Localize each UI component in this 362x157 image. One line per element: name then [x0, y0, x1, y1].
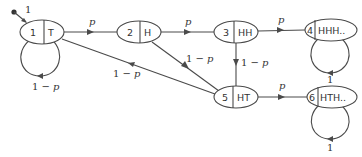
node-1: 1 T	[20, 20, 64, 44]
variable-p: p	[262, 57, 269, 68]
node-6: 6 HTH..	[307, 86, 357, 108]
node-state: HHH..	[318, 25, 345, 36]
node-id: 3	[223, 27, 229, 38]
edge-label-1-2: p	[89, 16, 96, 27]
node-state: H	[144, 27, 151, 38]
edge-label-3-4: p	[278, 14, 285, 25]
node-state: HH	[238, 27, 252, 38]
node-5: 5 HT	[214, 86, 258, 108]
edge-1-2: p	[64, 16, 117, 35]
node-id: 4	[307, 25, 313, 36]
variable-p: p	[207, 53, 214, 64]
variable-p: p	[134, 68, 141, 79]
arrow-icon	[37, 73, 43, 79]
edge-4-4: 1	[311, 39, 349, 85]
edge-label-1-1: 1 − p	[32, 81, 60, 92]
edge-label-6-6: 1	[327, 142, 333, 153]
node-state: HT	[237, 92, 250, 103]
edge-label-5-6: p	[279, 80, 286, 91]
edge-1-1: 1 − p	[21, 40, 60, 92]
edge-label-4-4: 1	[327, 74, 333, 85]
edge-5-1: 1 − p	[62, 39, 215, 94]
edge-label-3-5: 1 − p	[241, 57, 269, 68]
edge-label-2-3: p	[185, 16, 192, 27]
edge-label-2-5: 1 − p	[186, 53, 214, 64]
self-loop-1	[21, 40, 60, 76]
edge-label-5-1: 1 − p	[113, 68, 141, 79]
edge-label-start-1: 1	[25, 4, 31, 15]
node-id: 5	[222, 92, 228, 103]
arrow-icon	[278, 94, 285, 100]
node-id: 6	[309, 92, 315, 103]
variable-p: p	[53, 81, 60, 92]
arrow-icon	[184, 29, 191, 35]
node-id: 1	[30, 27, 36, 38]
node-4: 4 HHH..	[305, 19, 357, 41]
arrow-icon	[233, 59, 239, 66]
arrow-icon	[277, 27, 284, 33]
edge-3-5: 1 − p	[233, 43, 269, 86]
edge-2-3: p	[161, 16, 214, 35]
edge-5-6: p	[258, 80, 307, 100]
node-state: T	[47, 27, 54, 38]
node-state: HTH..	[320, 92, 346, 103]
arrow-icon	[87, 29, 94, 35]
node-3: 3 HH	[214, 21, 258, 43]
node-id: 2	[127, 27, 133, 38]
edge-6-6: 1	[311, 106, 349, 153]
self-loop-4	[311, 39, 349, 73]
start-marker: 1	[11, 4, 31, 23]
self-loop-6	[311, 106, 349, 139]
node-2: 2 H	[117, 21, 161, 43]
edge-3-4: p	[258, 14, 305, 33]
